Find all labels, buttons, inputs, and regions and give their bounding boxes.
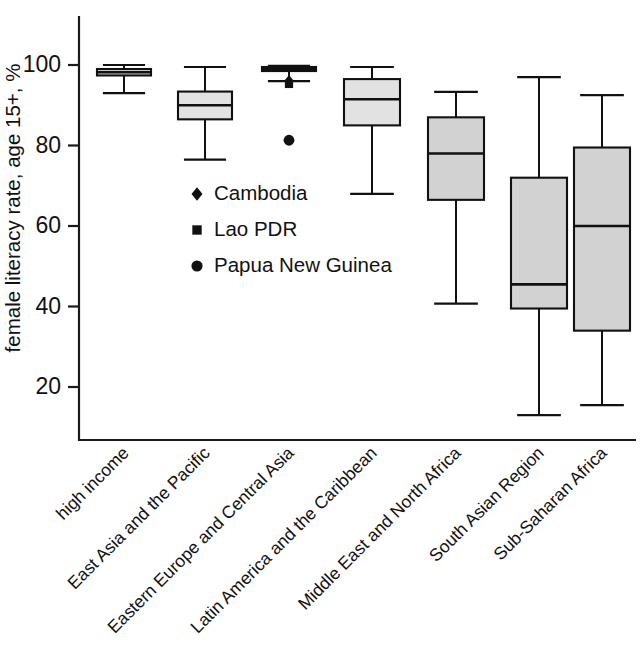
outlier-point bbox=[284, 135, 295, 146]
box-iqr-rect bbox=[574, 148, 630, 331]
box-plot-group bbox=[574, 95, 630, 405]
legend-diamond-icon bbox=[191, 187, 202, 201]
box-plot-group bbox=[178, 67, 232, 160]
y-tick-label: 100 bbox=[23, 51, 61, 77]
x-category-label: high income bbox=[52, 443, 133, 524]
y-tick-label: 20 bbox=[35, 373, 61, 399]
category-labels-layer: high incomeEast Asia and the PacificEast… bbox=[52, 443, 611, 638]
box-iqr-rect bbox=[344, 79, 400, 125]
x-category-label: Sub-Saharan Africa bbox=[489, 443, 611, 565]
legend-label: Cambodia bbox=[214, 181, 308, 204]
x-category-label: Middle East and North Africa bbox=[294, 443, 465, 614]
x-category-label: Latin America and the Caribbean bbox=[186, 443, 380, 637]
legend-square-icon bbox=[192, 225, 201, 234]
box-plot-group bbox=[97, 65, 151, 93]
x-category-label: East Asia and the Pacific bbox=[63, 443, 214, 594]
box-plot-group bbox=[428, 92, 484, 304]
legend-label: Lao PDR bbox=[214, 217, 297, 240]
y-tick-label: 60 bbox=[35, 212, 61, 238]
legend-layer: CambodiaLao PDRPapua New Guinea bbox=[191, 181, 392, 276]
axis-title-layer: female literacy rate, age 15+, % bbox=[1, 64, 24, 353]
y-axis-title: female literacy rate, age 15+, % bbox=[1, 64, 24, 353]
box-iqr-rect bbox=[511, 178, 567, 309]
box-plot-group bbox=[511, 77, 567, 415]
legend-label: Papua New Guinea bbox=[214, 253, 392, 276]
box-plot-chart: 20406080100 CambodiaLao PDRPapua New Gui… bbox=[0, 0, 641, 658]
y-tick-label: 40 bbox=[35, 293, 61, 319]
boxplot-canvas: 20406080100 CambodiaLao PDRPapua New Gui… bbox=[0, 0, 641, 658]
boxes-layer bbox=[97, 65, 630, 415]
y-tick-label: 80 bbox=[35, 132, 61, 158]
legend-circle-icon bbox=[191, 260, 202, 271]
country-marker-square-icon bbox=[285, 80, 293, 88]
box-iqr-rect bbox=[428, 117, 484, 200]
country-markers-layer bbox=[284, 75, 294, 88]
box-plot-group bbox=[344, 67, 400, 194]
